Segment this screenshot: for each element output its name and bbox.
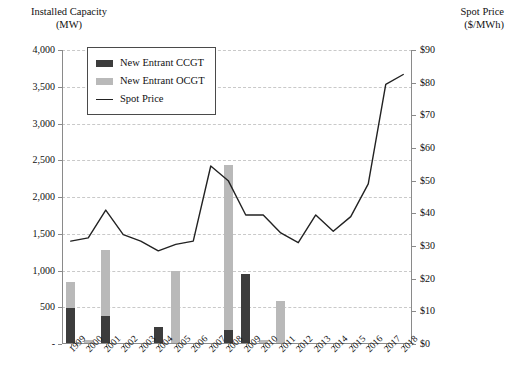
legend-item: New Entrant OCGT	[96, 72, 205, 90]
left-axis-title-line1: Installed Capacity	[14, 6, 124, 19]
y-tick-label-left: 2,500	[33, 155, 56, 165]
legend-swatch-ocgt-icon	[96, 78, 113, 85]
y-tick-label-right: $50	[420, 176, 435, 186]
y-axis-left	[62, 50, 63, 344]
legend-item: Spot Price	[96, 90, 205, 108]
y-tick-mark-left	[58, 234, 62, 235]
right-axis-title-line2: ($/MWh)	[384, 19, 504, 32]
y-tick-label-left: 500	[40, 302, 55, 312]
y-tick-label-left: 1,000	[33, 266, 56, 276]
y-tick-label-right: $0	[420, 339, 430, 349]
y-tick-mark-right	[412, 148, 416, 149]
right-axis-title: Spot Price ($/MWh)	[384, 6, 504, 31]
y-tick-mark-left	[58, 307, 62, 308]
y-tick-label-left: 1,500	[33, 229, 56, 239]
y-tick-mark-left	[58, 271, 62, 272]
y-tick-mark-left	[58, 160, 62, 161]
y-tick-label-left: 4,000	[33, 45, 56, 55]
left-axis-title: Installed Capacity (MW)	[14, 6, 124, 31]
legend-swatch-ccgt-icon	[96, 60, 113, 67]
y-tick-label-left: -	[52, 339, 55, 349]
right-axis-title-line1: Spot Price	[384, 6, 504, 19]
y-tick-mark-left	[58, 87, 62, 88]
y-tick-label-left: 2,000	[33, 192, 56, 202]
y-tick-label-right: $40	[420, 208, 435, 218]
legend-label-spot-price: Spot Price	[120, 93, 163, 105]
legend-item: New Entrant CCGT	[96, 54, 205, 72]
y-axis-right	[411, 50, 412, 344]
left-axis-title-line2: (MW)	[14, 19, 124, 32]
y-tick-label-right: $60	[420, 143, 435, 153]
y-tick-mark-right	[412, 83, 416, 84]
y-tick-mark-left	[58, 344, 62, 345]
legend-label-ocgt: New Entrant OCGT	[120, 75, 205, 87]
y-tick-label-left: 3,500	[33, 82, 56, 92]
y-tick-mark-right	[412, 213, 416, 214]
y-tick-mark-right	[412, 246, 416, 247]
y-tick-mark-right	[412, 181, 416, 182]
legend-line-spot-price-icon	[96, 99, 113, 100]
y-tick-mark-right	[412, 279, 416, 280]
legend-label-ccgt: New Entrant CCGT	[120, 57, 204, 69]
y-tick-mark-left	[58, 50, 62, 51]
y-tick-label-left: 3,000	[33, 119, 56, 129]
y-tick-mark-left	[58, 124, 62, 125]
y-tick-label-right: $20	[420, 274, 435, 284]
y-tick-mark-right	[412, 50, 416, 51]
y-tick-mark-right	[412, 311, 416, 312]
y-tick-mark-right	[412, 115, 416, 116]
y-tick-label-right: $10	[420, 306, 435, 316]
y-tick-mark-left	[58, 197, 62, 198]
y-tick-label-right: $90	[420, 45, 435, 55]
y-tick-label-right: $30	[420, 241, 435, 251]
chart-legend: New Entrant CCGT New Entrant OCGT Spot P…	[87, 47, 216, 115]
chart-figure: Installed Capacity (MW) Spot Price ($/MW…	[0, 0, 510, 386]
y-tick-label-right: $80	[420, 78, 435, 88]
y-tick-label-right: $70	[420, 110, 435, 120]
